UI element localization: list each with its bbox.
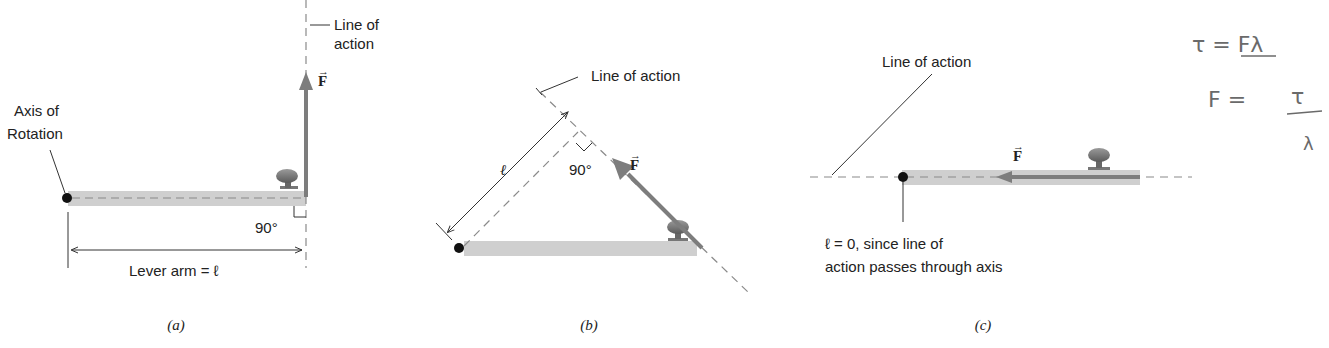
handwritten-line-2-numerator: τ <box>1291 84 1304 109</box>
handwritten-line-2-denominator: λ <box>1303 133 1314 154</box>
lever-arm-label: Lever arm = ℓ <box>129 262 219 279</box>
axis-of-rotation-dot <box>898 172 908 182</box>
angle-label: 90° <box>255 219 278 236</box>
axis-of-rotation-dot <box>62 193 72 203</box>
note-line-2: action passes through axis <box>825 258 1003 275</box>
door-knob-icon <box>276 169 298 189</box>
caption-b: (b) <box>580 317 598 334</box>
handwritten-notes: τ = Fλ F = τ λ <box>1192 32 1322 154</box>
axis-label-1: Axis of <box>14 102 60 119</box>
caption-c: (c) <box>975 317 992 334</box>
lever-arm-dimension <box>448 112 568 232</box>
note-line-1: ℓ = 0, since line of <box>825 235 944 252</box>
right-angle-mark <box>576 143 592 151</box>
svg-text:→: → <box>630 149 641 161</box>
angle-label: 90° <box>569 161 592 178</box>
axis-label-2: Rotation <box>7 125 63 142</box>
svg-text:→: → <box>1013 140 1024 152</box>
right-angle-mark <box>294 206 306 217</box>
door-board <box>464 241 697 256</box>
torque-lever-arm-figure: Line of action F → Axis of Rotation 90° … <box>0 0 1329 348</box>
line-of-action-label-1: Line of <box>334 16 380 33</box>
caption-a: (a) <box>167 317 185 334</box>
axis-of-rotation-dot <box>454 243 464 253</box>
perpendicular-dashed <box>464 132 578 246</box>
panel-c: Line of action F → ℓ = 0, since line of … <box>810 53 1192 334</box>
force-arrow-icon <box>612 158 702 248</box>
force-arrow-icon <box>299 72 313 197</box>
panel-a: Line of action F → Axis of Rotation 90° … <box>7 0 380 334</box>
line-of-action-label: Line of action <box>591 67 680 84</box>
panel-b: Line of action ℓ 90° F → (b) <box>436 67 748 334</box>
line-of-action-label: Line of action <box>882 53 971 70</box>
lever-arm-symbol: ℓ <box>500 162 506 178</box>
handwritten-line-1: τ = Fλ <box>1192 32 1263 57</box>
svg-text:→: → <box>318 65 329 77</box>
handwritten-line-2-lhs: F = <box>1208 87 1246 112</box>
line-of-action-label-2: action <box>334 35 374 52</box>
door-knob-icon <box>1088 148 1110 170</box>
